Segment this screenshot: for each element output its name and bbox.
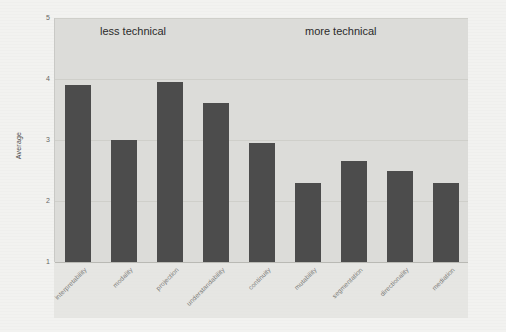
bar-directionality: [387, 171, 414, 263]
annotation-less-technical: less technical: [100, 25, 166, 37]
y-tick-1: 1: [38, 258, 50, 265]
bar-continuity: [249, 143, 276, 262]
bar-understandability: [203, 103, 230, 262]
bar-modality: [111, 140, 138, 262]
bar-mediation: [433, 183, 460, 262]
annotation-more-technical: more technical: [305, 25, 377, 37]
bar-interpretability: [65, 85, 92, 262]
plot-area: [54, 18, 468, 262]
bar-projection: [157, 82, 184, 262]
y-axis-title: Average: [15, 111, 22, 181]
y-tick-2: 2: [38, 197, 50, 204]
bar-mutability: [295, 183, 322, 262]
gridline-1: [55, 262, 468, 263]
y-tick-4: 4: [38, 75, 50, 82]
y-tick-3: 3: [38, 136, 50, 143]
chart-figure: Average 12345 less technical more techni…: [0, 0, 506, 332]
bar-segmentation: [341, 161, 368, 262]
bar-series: [55, 18, 468, 262]
y-tick-5: 5: [38, 14, 50, 21]
